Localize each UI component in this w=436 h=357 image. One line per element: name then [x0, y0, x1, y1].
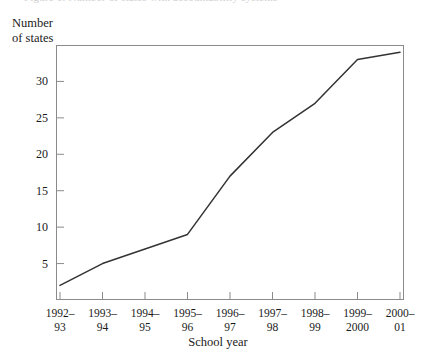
y-tick-label: 20: [14, 147, 48, 162]
y-tick-label: 30: [14, 74, 48, 89]
x-tick-marks: [60, 292, 400, 300]
data-series-line: [60, 52, 400, 285]
y-tick-label: 5: [14, 256, 48, 271]
figure-container: Figure 1. Number of states with accounta…: [0, 0, 436, 357]
y-tick-label: 10: [14, 220, 48, 235]
y-tick-marks: [56, 81, 64, 263]
x-tick-label: 2000– 01: [374, 306, 426, 334]
plot-svg: [0, 0, 436, 357]
y-tick-label: 25: [14, 110, 48, 125]
x-axis-title: School year: [0, 335, 436, 350]
y-tick-label: 15: [14, 183, 48, 198]
